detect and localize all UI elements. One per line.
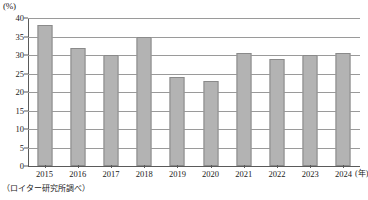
- x-axis-tick-label-2019: 2019: [169, 169, 186, 179]
- x-axis-tick-mark-2016: [78, 165, 79, 168]
- x-axis-tick-label-2018: 2018: [136, 169, 153, 179]
- x-axis-tick-mark-2019: [177, 165, 178, 168]
- x-axis-tick-mark-2017: [111, 165, 112, 168]
- x-axis-tick-label-2021: 2021: [235, 169, 252, 179]
- bar-slot: [260, 18, 293, 166]
- y-axis-tick-label-25: 25: [16, 69, 25, 78]
- bar-2021: [236, 53, 251, 166]
- bar-2018: [137, 37, 152, 167]
- y-axis-tick-label-10: 10: [16, 125, 25, 134]
- bars-group: [28, 18, 360, 166]
- bar-2023: [303, 55, 318, 166]
- y-axis-tick-label-35: 35: [16, 32, 25, 41]
- bar-2019: [170, 77, 185, 166]
- x-axis-tick-mark-2021: [244, 165, 245, 168]
- x-axis-tick-label-2020: 2020: [202, 169, 219, 179]
- bar-slot: [294, 18, 327, 166]
- x-axis-tick-mark-2024: [343, 165, 344, 168]
- x-axis-tick-label-2015: 2015: [36, 169, 53, 179]
- x-axis-tick-mark-2018: [144, 165, 145, 168]
- x-axis-tick-mark-2023: [310, 165, 311, 168]
- y-axis-unit-label: (%): [3, 1, 16, 11]
- bar-slot: [28, 18, 61, 166]
- bar-slot: [161, 18, 194, 166]
- bar-2020: [203, 81, 218, 166]
- y-axis-tick-label-30: 30: [16, 51, 25, 60]
- bar-2024: [336, 53, 351, 166]
- bar-slot: [327, 18, 360, 166]
- x-axis-tick-label-2023: 2023: [302, 169, 319, 179]
- x-axis-tick-label-2016: 2016: [69, 169, 86, 179]
- plot-area: 0510152025303540: [28, 18, 360, 166]
- bar-2016: [70, 48, 85, 166]
- x-axis-tick-label-2017: 2017: [103, 169, 120, 179]
- y-axis-tick-label-15: 15: [16, 106, 25, 115]
- x-axis-tick-mark-2022: [277, 165, 278, 168]
- x-axis-unit-label: (年): [355, 169, 368, 179]
- bar-2017: [103, 55, 118, 166]
- x-axis-tick-mark-2020: [211, 165, 212, 168]
- y-axis-tick-label-20: 20: [16, 88, 25, 97]
- y-axis-tick-label-40: 40: [16, 14, 25, 23]
- bar-2015: [37, 25, 52, 166]
- x-axis-labels-group: (年) 201520162017201820192020202120222023…: [28, 168, 360, 182]
- bar-2022: [269, 59, 284, 166]
- bar-slot: [94, 18, 127, 166]
- x-axis-tick-mark-2015: [45, 165, 46, 168]
- bar-slot: [128, 18, 161, 166]
- x-axis-tick-label-2024: 2024: [335, 169, 352, 179]
- x-axis-tick-label-2022: 2022: [269, 169, 286, 179]
- bar-slot: [227, 18, 260, 166]
- bar-slot: [194, 18, 227, 166]
- bar-slot: [61, 18, 94, 166]
- source-note: （ロイター研究所調べ）: [2, 184, 90, 194]
